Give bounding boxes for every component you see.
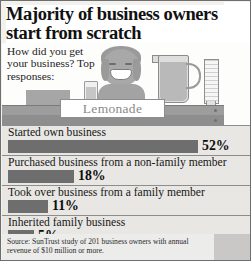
bar-row: Took over business from a family member … [2, 185, 251, 215]
title-white-gutter [224, 2, 251, 43]
child-hair-left-icon [101, 59, 109, 81]
source-note: Source: SunTrust study of 201 business o… [7, 238, 212, 255]
row-divider [2, 215, 251, 216]
row-divider [2, 185, 251, 186]
bar-value: 11% [52, 198, 79, 214]
bar-label: Inherited family business [2, 215, 251, 229]
bar-chart: Started own business 52% Purchased busin… [2, 125, 251, 235]
bar-track: 11% [2, 200, 251, 215]
bar-value: 18% [78, 168, 106, 184]
child-smile-icon [110, 69, 132, 80]
child-eye-right-icon [125, 63, 132, 65]
bar-fill [8, 200, 48, 213]
bar-value: 52% [202, 138, 230, 154]
bar-track: 52% [2, 140, 251, 155]
row-divider [2, 155, 251, 156]
row-divider [2, 125, 251, 126]
bar-label: Purchased business from a non-family mem… [2, 155, 251, 169]
bar-track: 18% [2, 170, 251, 185]
lemonade-sign: Lemonade [60, 99, 165, 118]
bar-fill [8, 170, 74, 183]
child-eye-left-icon [109, 63, 116, 65]
footer-right-block [214, 234, 251, 261]
page-title: Majority of business owners start from s… [6, 5, 224, 43]
bar-label: Started own business [2, 125, 251, 139]
infographic-card: Lemonade Majority of business owners sta… [0, 0, 251, 261]
lemonade-sign-label: Lemonade [83, 101, 142, 117]
child-hair-right-icon [133, 59, 141, 81]
chart-subtitle: How did you get your business? Top respo… [7, 45, 102, 82]
bar-row: Started own business 52% [2, 125, 251, 155]
bar-label: Took over business from a family member [2, 185, 251, 199]
stand-nail-lower-icon [214, 119, 217, 122]
bar-fill [8, 140, 198, 153]
cup-stack-icon [204, 59, 219, 104]
pitcher-liquid-icon [160, 62, 187, 101]
bar-row: Purchased business from a non-family mem… [2, 155, 251, 185]
stand-nail-upper-icon [214, 109, 217, 112]
